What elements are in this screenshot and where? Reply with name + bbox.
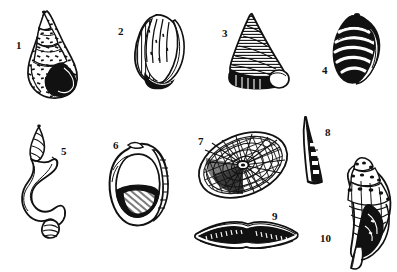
specimen-6-artwork: [110, 143, 169, 226]
specimen-3-artwork: [229, 13, 289, 89]
shell-illustration-plate: 1 2 3 4 5 6 7 8 9 10: [0, 0, 397, 272]
specimen-label-9: 9: [272, 211, 278, 222]
specimen-label-2: 2: [118, 26, 124, 37]
specimen-label-7: 7: [198, 136, 204, 147]
specimen-label-10: 10: [320, 233, 331, 244]
specimen-label-3: 3: [222, 28, 228, 39]
specimen-label-4: 4: [322, 65, 328, 76]
specimen-2-artwork: [135, 15, 184, 89]
specimen-9-artwork: [195, 222, 298, 249]
specimen-label-5: 5: [61, 146, 67, 157]
specimen-8-artwork: [304, 117, 322, 184]
specimen-label-1: 1: [16, 40, 22, 51]
specimen-1-artwork: [28, 10, 77, 98]
specimen-label-6: 6: [113, 140, 119, 151]
specimen-7-artwork: [189, 120, 297, 210]
specimen-10-artwork: [348, 158, 391, 269]
specimen-4-artwork: [333, 13, 379, 84]
specimen-5-artwork: [22, 125, 65, 238]
specimen-label-8: 8: [325, 127, 331, 138]
